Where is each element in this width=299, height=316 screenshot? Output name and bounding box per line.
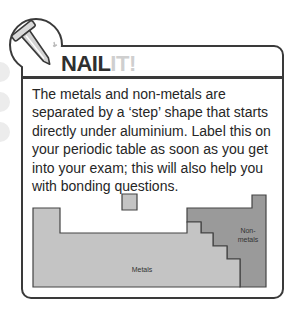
nonmetals-label-line1: Non- [228,226,268,235]
hydrogen-block [122,194,137,210]
nonmetals-label-line2: metals [228,235,268,244]
metals-label: Metals [112,265,172,274]
